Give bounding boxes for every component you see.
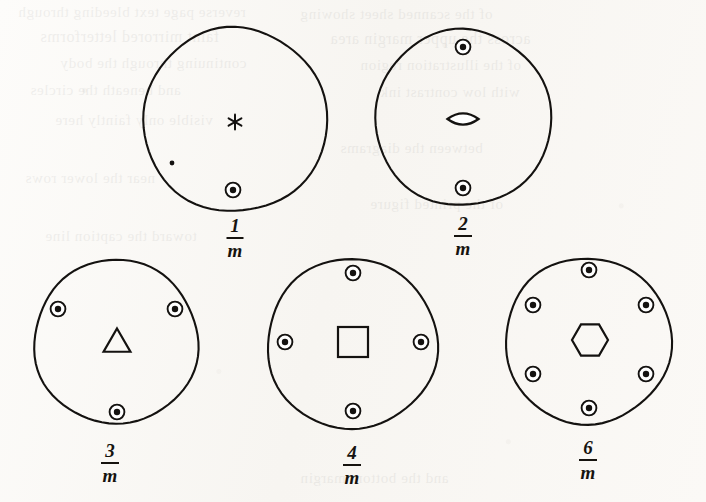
site-dot: [282, 339, 288, 345]
fraction-bar: [343, 464, 361, 466]
site-marker: [346, 266, 361, 281]
label-numerator: 6: [579, 438, 597, 458]
projection-circle: [34, 260, 198, 424]
site-marker: [278, 335, 293, 350]
group-label-three-over-m: 3 m: [101, 441, 119, 485]
label-denominator: m: [343, 468, 361, 487]
site-dot: [643, 371, 649, 377]
site-marker: [526, 298, 541, 313]
fraction-bar: [101, 462, 119, 464]
site-marker: [456, 181, 471, 196]
site-dot: [230, 187, 236, 193]
three-fold-triangle-glyph: [104, 329, 131, 352]
stereogram-one-over-m: [143, 27, 327, 211]
site-dot: [643, 302, 649, 308]
label-denominator: m: [101, 466, 119, 485]
site-dot: [530, 302, 536, 308]
stereogram-three-over-m: [34, 260, 198, 424]
group-label-two-over-m: 2 m: [454, 214, 472, 258]
fraction-bar: [454, 235, 472, 237]
site-marker: [346, 404, 361, 419]
label-numerator: 1: [227, 216, 244, 236]
six-fold-hexagon-glyph: [572, 324, 608, 355]
site-dot: [350, 408, 356, 414]
site-marker: [639, 298, 654, 313]
site-dot: [586, 267, 592, 273]
fraction-bar: [579, 459, 597, 461]
site-dot: [172, 306, 178, 312]
site-marker: [526, 367, 541, 382]
stereogram-diagram-canvas: [0, 0, 706, 502]
stereogram-figure: reverse page text bleeding throughof the…: [0, 0, 706, 502]
site-marker: [226, 183, 241, 198]
label-denominator: m: [579, 463, 597, 482]
site-marker: [168, 302, 183, 317]
site-marker: [414, 335, 429, 350]
site-dot: [460, 44, 466, 50]
four-fold-square-glyph: [338, 327, 368, 357]
label-denominator: m: [454, 239, 472, 258]
group-label-four-over-m: 4 m: [343, 443, 361, 487]
site-dot: [350, 270, 356, 276]
site-dot: [418, 339, 424, 345]
stray-speck-icon: [170, 161, 175, 166]
site-marker: [456, 40, 471, 55]
label-denominator: m: [227, 241, 244, 260]
stereogram-two-over-m: [375, 29, 551, 205]
site-dot: [530, 371, 536, 377]
group-label-one-over-m: 1 m: [227, 216, 244, 260]
group-label-six-over-m: 6 m: [579, 438, 597, 482]
site-marker: [582, 401, 597, 416]
site-marker: [582, 263, 597, 278]
fraction-bar: [227, 237, 244, 239]
stereogram-four-over-m: [268, 259, 438, 429]
site-marker: [639, 367, 654, 382]
label-numerator: 2: [454, 214, 472, 234]
site-marker: [110, 405, 125, 420]
site-dot: [55, 306, 61, 312]
site-marker: [51, 302, 66, 317]
label-numerator: 3: [101, 441, 119, 461]
label-numerator: 4: [343, 443, 361, 463]
star-axis-glyph: [229, 115, 242, 130]
site-dot: [460, 185, 466, 191]
site-dot: [586, 405, 592, 411]
two-fold-lens-glyph: [448, 113, 479, 124]
site-dot: [114, 409, 120, 415]
stereogram-six-over-m: [506, 259, 672, 425]
